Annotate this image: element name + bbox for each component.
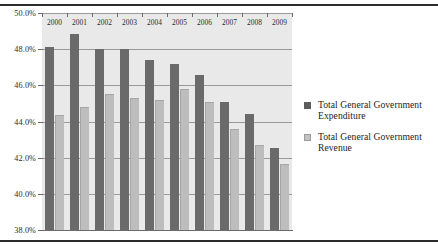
x-tick-mark (217, 13, 218, 17)
bar-expenditure-2001 (70, 34, 79, 230)
bar-revenue-2003 (130, 98, 139, 230)
bar-revenue-2004 (155, 100, 164, 230)
y-tick-label: 46.0% (14, 81, 36, 90)
legend-item-label: Total General Government Revenue (318, 131, 436, 154)
bar-revenue-2007 (230, 129, 239, 230)
legend-item-revenue[interactable]: Total General Government Revenue (304, 131, 436, 154)
bar-revenue-2006 (205, 102, 214, 230)
bar-expenditure-2000 (45, 47, 54, 230)
legend-swatch-icon (304, 134, 311, 141)
x-tick-label-2005: 2005 (172, 18, 187, 27)
chart-figure: 38.0%40.0%42.0%44.0%46.0%48.0%50.0% 2000… (0, 0, 438, 247)
x-tick-label-2007: 2007 (222, 18, 237, 27)
x-tick-mark (242, 13, 243, 17)
bar-revenue-2005 (180, 89, 189, 230)
y-tick-label: 50.0% (14, 9, 36, 18)
bar-expenditure-2006 (195, 75, 204, 230)
bar-revenue-2001 (80, 107, 89, 230)
bar-expenditure-2009 (270, 148, 279, 230)
x-tick-mark (42, 13, 43, 17)
bar-group (42, 13, 292, 230)
legend-item-label: Total General Government Expenditure (318, 99, 436, 122)
bar-expenditure-2005 (170, 64, 179, 230)
y-tick-label: 48.0% (14, 45, 36, 54)
y-tick-label: 40.0% (14, 189, 36, 198)
bar-expenditure-2007 (220, 102, 229, 230)
x-axis-line (42, 230, 293, 231)
x-tick-mark (192, 13, 193, 17)
bar-expenditure-2008 (245, 114, 254, 230)
bar-revenue-2002 (105, 94, 114, 230)
x-tick-label-2009: 2009 (272, 18, 287, 27)
x-tick-mark (267, 13, 268, 17)
x-tick-mark (167, 13, 168, 17)
x-tick-mark (67, 13, 68, 17)
x-tick-mark (142, 13, 143, 17)
y-tick-label: 42.0% (14, 153, 36, 162)
x-tick-label-2000: 2000 (47, 18, 62, 27)
x-tick-mark (92, 13, 93, 17)
bar-revenue-2009 (280, 164, 289, 230)
bottom-horizontal-rule (0, 240, 438, 242)
y-tick-label: 38.0% (14, 226, 36, 235)
x-tick-label-2003: 2003 (122, 18, 137, 27)
y-tick-mark (38, 230, 43, 231)
bar-revenue-2000 (55, 115, 64, 230)
bar-revenue-2008 (255, 145, 264, 230)
y-tick-label: 44.0% (14, 117, 36, 126)
x-tick-label-2001: 2001 (72, 18, 87, 27)
plot-wrapper: 38.0%40.0%42.0%44.0%46.0%48.0%50.0% 2000… (42, 13, 292, 230)
bar-expenditure-2004 (145, 60, 154, 230)
legend-item-expenditure[interactable]: Total General Government Expenditure (304, 99, 436, 122)
bar-expenditure-2002 (95, 49, 104, 230)
x-tick-label-2004: 2004 (147, 18, 162, 27)
x-tick-label-2002: 2002 (97, 18, 112, 27)
x-tick-mark (292, 13, 293, 17)
legend-swatch-icon (304, 102, 311, 109)
chart-legend: Total General Government ExpenditureTota… (304, 99, 436, 163)
x-tick-mark (117, 13, 118, 17)
x-tick-label-2008: 2008 (247, 18, 262, 27)
x-tick-label-2006: 2006 (197, 18, 212, 27)
top-horizontal-rule (0, 4, 438, 6)
bar-expenditure-2003 (120, 49, 129, 230)
